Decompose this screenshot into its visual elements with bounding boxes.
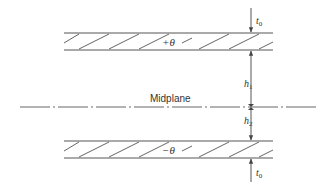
bottom-ply-angle-label: −θ	[162, 144, 175, 156]
bottom-ply: −θ	[64, 141, 273, 158]
top-ply: +θ	[64, 33, 273, 50]
laminate-diagram: +θ Midplane −θ t0 h1 h2 t0	[0, 0, 331, 188]
top-ply-angle-label: +θ	[162, 36, 175, 48]
t0-top-label: t0	[256, 15, 263, 28]
t0-bottom-label: t0	[256, 167, 263, 180]
midplane-label: Midplane	[150, 93, 191, 104]
h1-label: h1	[244, 78, 253, 91]
h2-label: h2	[244, 115, 253, 128]
dimension-lines	[248, 8, 254, 182]
midplane: Midplane	[20, 93, 316, 107]
